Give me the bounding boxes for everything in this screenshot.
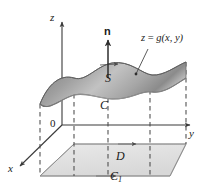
surface-equation-rhs: g(x, y) xyxy=(156,32,183,43)
x-axis-label: x xyxy=(8,163,13,174)
origin-label: 0 xyxy=(50,118,56,129)
surface-s-label: S xyxy=(105,72,111,84)
curve-c1-label: C1 xyxy=(110,170,122,184)
curve-c1-subscript: 1 xyxy=(118,175,122,184)
figure-container: z y x 0 n S C D C1 z = g(x, y) xyxy=(0,0,205,187)
z-axis-label: z xyxy=(50,12,54,23)
surface-equation-operator: = xyxy=(145,32,156,43)
curve-c-label: C xyxy=(100,99,108,111)
equation-leader-dot xyxy=(135,73,138,76)
region-d-label: D xyxy=(116,150,125,162)
x-axis-line xyxy=(20,125,62,166)
diagram-canvas xyxy=(0,0,205,187)
surface-equation-label: z = g(x, y) xyxy=(141,33,183,44)
normal-vector-label: n xyxy=(104,26,111,37)
curve-c1-base: C xyxy=(110,169,118,183)
y-axis-label: y xyxy=(189,128,194,139)
equation-leader-line xyxy=(136,49,148,74)
